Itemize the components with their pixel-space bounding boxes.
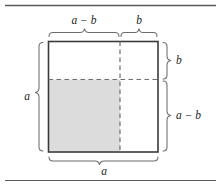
label-bottom: a (101, 165, 107, 177)
label-top-left: a − b (71, 14, 96, 26)
figure-container: a − b b b a − b a a (0, 0, 221, 191)
square-difference-figure: a − b b b a − b a a (0, 0, 221, 191)
label-left: a (24, 90, 30, 102)
label-right-bottom: a − b (176, 109, 201, 121)
shaded-region (49, 80, 121, 152)
label-top-right: b (136, 14, 142, 26)
label-right-top: b (176, 54, 182, 66)
